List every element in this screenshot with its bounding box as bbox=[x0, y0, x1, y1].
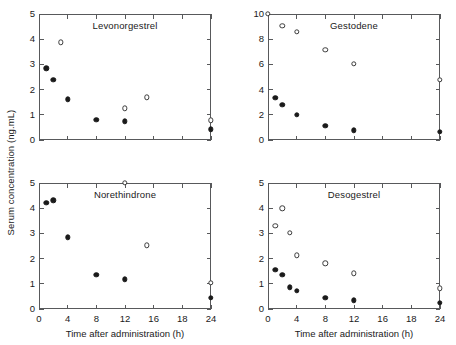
y-tick-label: 2 bbox=[259, 254, 264, 264]
plot-frame bbox=[39, 183, 211, 309]
panel-levonorgestrel: Levonorgestrel012345 bbox=[39, 14, 211, 140]
y-tick bbox=[207, 183, 212, 184]
y-tick bbox=[268, 64, 273, 65]
y-tick bbox=[39, 64, 44, 65]
x-tick bbox=[354, 305, 355, 310]
x-tick-label: 12 bbox=[120, 314, 131, 324]
x-tick bbox=[96, 14, 97, 19]
data-point bbox=[437, 286, 442, 291]
x-tick bbox=[296, 136, 297, 141]
x-tick bbox=[325, 136, 326, 141]
y-tick bbox=[268, 114, 273, 115]
y-tick-label: 0 bbox=[30, 304, 35, 314]
x-tick bbox=[354, 14, 355, 19]
y-tick bbox=[39, 233, 44, 234]
x-tick bbox=[67, 305, 68, 310]
x-tick bbox=[182, 14, 183, 19]
x-tick bbox=[153, 136, 154, 141]
y-tick-label: 10 bbox=[253, 9, 264, 19]
y-tick bbox=[436, 258, 441, 259]
y-tick bbox=[39, 283, 44, 284]
x-tick-label: 18 bbox=[177, 314, 188, 324]
y-tick bbox=[39, 140, 44, 141]
y-tick bbox=[268, 309, 273, 310]
y-tick bbox=[268, 208, 273, 209]
x-tick-label: 16 bbox=[377, 314, 388, 324]
y-tick bbox=[268, 89, 273, 90]
data-point bbox=[208, 127, 213, 132]
x-tick-label: 8 bbox=[323, 314, 328, 324]
x-tick bbox=[382, 136, 383, 141]
y-tick-label: 0 bbox=[259, 304, 264, 314]
x-tick bbox=[411, 183, 412, 188]
x-tick-label: 8 bbox=[94, 314, 99, 324]
y-tick bbox=[39, 258, 44, 259]
x-tick-label: 16 bbox=[148, 314, 159, 324]
y-tick bbox=[39, 183, 44, 184]
x-tick bbox=[325, 305, 326, 310]
x-tick bbox=[411, 14, 412, 19]
y-tick bbox=[436, 140, 441, 141]
y-tick bbox=[39, 114, 44, 115]
x-tick bbox=[67, 14, 68, 19]
x-tick-label: 4 bbox=[65, 314, 70, 324]
y-tick bbox=[268, 39, 273, 40]
y-tick-label: 6 bbox=[259, 60, 264, 70]
y-tick bbox=[268, 283, 273, 284]
x-tick-label: 24 bbox=[206, 314, 217, 324]
x-tick-label: 24 bbox=[435, 314, 446, 324]
x-axis-title: Time after administration (h) bbox=[268, 328, 440, 339]
y-tick bbox=[39, 89, 44, 90]
x-tick bbox=[382, 14, 383, 19]
x-tick bbox=[39, 14, 40, 19]
y-tick-label: 2 bbox=[30, 85, 35, 95]
x-tick-label: 0 bbox=[36, 314, 41, 324]
y-tick bbox=[207, 39, 212, 40]
x-tick bbox=[182, 183, 183, 188]
y-tick bbox=[436, 89, 441, 90]
x-axis-title: Time after administration (h) bbox=[39, 328, 211, 339]
y-tick bbox=[39, 39, 44, 40]
y-tick bbox=[207, 114, 212, 115]
y-tick bbox=[207, 208, 212, 209]
x-tick bbox=[411, 136, 412, 141]
y-tick-label: 8 bbox=[259, 34, 264, 44]
y-tick bbox=[207, 258, 212, 259]
x-tick-label: 18 bbox=[406, 314, 417, 324]
y-tick-label: 0 bbox=[30, 135, 35, 145]
data-point bbox=[437, 300, 442, 305]
x-tick bbox=[440, 14, 441, 19]
y-tick bbox=[268, 140, 273, 141]
data-point bbox=[208, 280, 213, 285]
x-tick bbox=[411, 305, 412, 310]
panel-desogestrel: Desogestrel04812161824012345Time after a… bbox=[268, 183, 440, 309]
y-tick-label: 5 bbox=[30, 178, 35, 188]
data-point bbox=[437, 129, 442, 134]
y-tick-label: 4 bbox=[259, 85, 264, 95]
x-tick bbox=[296, 305, 297, 310]
y-tick bbox=[39, 208, 44, 209]
y-tick-label: 3 bbox=[259, 229, 264, 239]
x-tick bbox=[182, 305, 183, 310]
y-tick-label: 5 bbox=[30, 9, 35, 19]
y-tick bbox=[268, 258, 273, 259]
x-tick bbox=[354, 183, 355, 188]
x-tick bbox=[153, 305, 154, 310]
x-tick bbox=[211, 14, 212, 19]
y-tick bbox=[268, 183, 273, 184]
x-tick bbox=[67, 183, 68, 188]
figure-panel-grid: Serum concentration (ng.mL) Levonorgestr… bbox=[0, 0, 456, 345]
y-tick-label: 1 bbox=[30, 110, 35, 120]
y-tick bbox=[207, 89, 212, 90]
x-tick bbox=[125, 14, 126, 19]
y-tick bbox=[268, 233, 273, 234]
data-point bbox=[437, 77, 442, 82]
y-tick-label: 0 bbox=[259, 135, 264, 145]
y-tick-label: 3 bbox=[30, 60, 35, 70]
y-tick bbox=[207, 233, 212, 234]
x-tick bbox=[96, 305, 97, 310]
y-axis-title: Serum concentration (ng.mL) bbox=[2, 0, 18, 345]
x-tick bbox=[268, 183, 269, 188]
x-tick bbox=[382, 305, 383, 310]
panel-gestodene: Gestodene0246810 bbox=[268, 14, 440, 140]
